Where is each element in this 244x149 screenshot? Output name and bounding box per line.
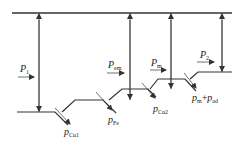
power-flow-diagram	[0, 0, 244, 149]
label-pm: Pm	[151, 58, 162, 69]
label-pm-plus-pad: pm+pad	[192, 93, 218, 104]
level-pem-pre	[62, 100, 116, 113]
label-p2: P2	[200, 50, 209, 61]
loss-arrow-pcu1	[55, 108, 70, 124]
label-pem: Pem	[108, 60, 121, 71]
label-pfe: pFe	[108, 115, 119, 126]
label-p1: P1	[20, 64, 29, 75]
label-pcu2: pCu2	[153, 104, 168, 115]
label-pcu1: pCu1	[64, 127, 79, 138]
loss-arrow-pfe	[96, 92, 112, 110]
level-pm	[150, 79, 196, 91]
level-p2	[190, 72, 232, 79]
